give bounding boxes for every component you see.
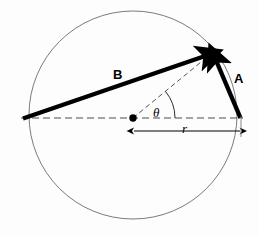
vector-a-line xyxy=(215,58,241,118)
angle-arc xyxy=(165,91,175,118)
diagram-canvas xyxy=(0,0,259,236)
vector-circle-diagram: A B θ r xyxy=(0,0,259,236)
vector-a-label: A xyxy=(234,72,243,85)
center-dot xyxy=(129,114,136,121)
vector-tip-joint xyxy=(209,48,216,55)
radius-dashed-line xyxy=(133,53,212,118)
vector-b-line xyxy=(23,55,208,119)
angle-theta-label: θ xyxy=(153,106,159,119)
vector-b-label: B xyxy=(113,68,122,81)
radius-r-label: r xyxy=(182,122,187,135)
